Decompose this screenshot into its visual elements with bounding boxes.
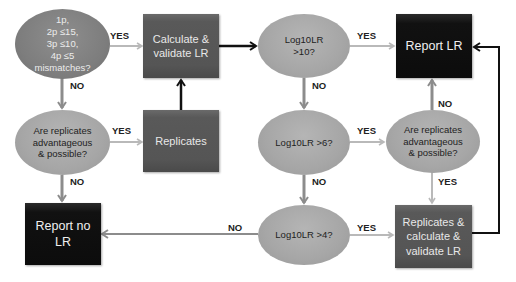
calculate-validate-node: Calculate & validate LR <box>143 14 219 78</box>
node-line: Report LR <box>406 38 463 54</box>
label-gt4-yes: YES <box>357 222 376 233</box>
report-no-lr-node: Report no LR <box>25 203 101 265</box>
replicates-calculate-validate-node: Replicates & calculate & validate LR <box>395 205 472 268</box>
node-line: calculate & <box>403 229 465 243</box>
label-mismatch-no: NO <box>70 80 84 91</box>
node-line: validate LR <box>153 46 209 60</box>
node-line: validate LR <box>403 244 465 258</box>
node-line: & possible? <box>403 147 463 159</box>
label-rep-right-no: NO <box>438 98 452 109</box>
node-line: & possible? <box>33 148 93 160</box>
label-rep-right-yes: YES <box>438 176 457 187</box>
node-line: Are replicates <box>403 124 463 136</box>
label-gt6-no: NO <box>312 176 326 187</box>
mismatch-check-text: 1p, 2p ≤15, 3p ≤10, 4p ≤5 mismatches? <box>35 14 91 73</box>
node-line: Report no <box>36 218 91 234</box>
label-rep-left-no: NO <box>70 176 84 187</box>
label-mismatch-yes: YES <box>110 30 129 41</box>
replicates-question-right-node: Are replicates advantageous & possible? <box>386 110 480 173</box>
label-gt10-yes: YES <box>357 30 376 41</box>
log10lr-gt4-node: Log10LR >4? <box>258 205 350 265</box>
node-line: >10? <box>285 46 324 58</box>
log10lr-gt10-node: Log10LR >10? <box>258 14 350 78</box>
node-line: Log10LR <box>285 34 324 46</box>
node-line: Calculate & <box>153 32 209 46</box>
replicates-question-left-node: Are replicates advantageous & possible? <box>15 110 110 175</box>
replicates-node: Replicates <box>143 110 219 172</box>
node-line: advantageous <box>403 136 463 148</box>
log10lr-gt6-node: Log10LR >6? <box>258 110 350 175</box>
label-gt4-no: NO <box>228 222 242 233</box>
node-line: Are replicates <box>33 125 93 137</box>
label-gt6-yes: YES <box>357 125 376 136</box>
node-line: advantageous <box>33 137 93 149</box>
node-line: mismatches? <box>35 62 91 74</box>
report-lr-node: Report LR <box>396 14 472 78</box>
node-line: LR <box>36 234 91 250</box>
node-line: 4p ≤5 <box>35 50 91 62</box>
node-line: 3p ≤10, <box>35 38 91 50</box>
mismatch-check-node: 1p, 2p ≤15, 3p ≤10, 4p ≤5 mismatches? <box>15 9 110 79</box>
node-line: Replicates <box>155 134 206 148</box>
node-line: Replicates & <box>403 215 465 229</box>
label-rep-left-yes: YES <box>112 125 131 136</box>
node-line: Log10LR >4? <box>275 229 332 241</box>
node-line: 1p, <box>35 14 91 26</box>
node-line: 2p ≤15, <box>35 26 91 38</box>
label-gt10-no: NO <box>312 80 326 91</box>
node-line: Log10LR >6? <box>275 137 332 149</box>
